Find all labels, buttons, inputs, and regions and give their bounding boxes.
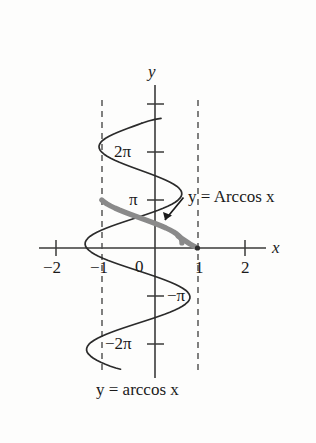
curve-arccos-principal — [102, 200, 182, 243]
x-tick-label-neg2: −2 — [43, 259, 61, 276]
x-tick-label-zero: 0 — [135, 258, 144, 275]
endpoint-dot-1-0 — [195, 245, 200, 250]
y-tick-label-2pi: 2π — [114, 143, 131, 160]
principal-branch-annotation: y = Arccos x — [188, 188, 275, 205]
curve-cos-top-tail — [142, 118, 161, 123]
annotation-arrow — [163, 198, 184, 221]
y-tick-label-neg-pi: −π — [167, 287, 185, 304]
y-tick-label-pi: π — [129, 191, 138, 208]
x-tick-label-pos2: 2 — [241, 259, 250, 276]
x-tick-label-neg1: −1 — [90, 259, 108, 276]
y-tick-label-neg-2pi: −2π — [105, 335, 132, 352]
figure-caption: y = arccos x — [96, 381, 179, 398]
curve-cos-upper-branch — [85, 123, 190, 369]
arccos-graph-figure — [0, 0, 316, 443]
x-tick-label-pos1: 1 — [195, 259, 204, 276]
x-axis-label: x — [272, 239, 280, 256]
y-axis-label: y — [148, 63, 156, 80]
